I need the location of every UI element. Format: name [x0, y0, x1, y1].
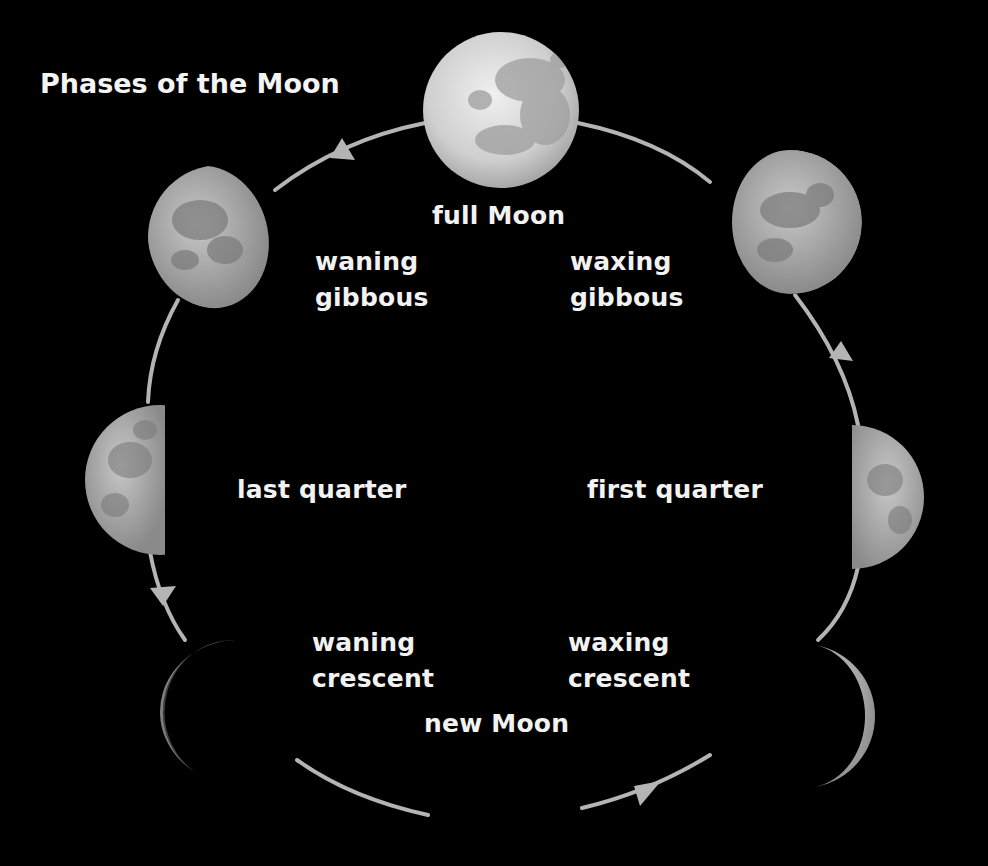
moon-waning-crescent	[160, 640, 235, 772]
label-line: gibbous	[315, 280, 429, 316]
arrow-icon	[330, 138, 355, 160]
label-line: waning	[312, 625, 434, 661]
label-line: crescent	[568, 661, 690, 697]
label-line: waxing	[568, 625, 690, 661]
arrow-icon	[634, 781, 661, 806]
label-full-moon: full Moon	[432, 198, 565, 234]
moon-waning-gibbous	[131, 152, 284, 322]
arrow-icon	[150, 586, 176, 606]
diagram-title: Phases of the Moon	[40, 68, 340, 99]
moon-first-quarter	[852, 420, 932, 580]
moon-full	[423, 32, 579, 188]
moon-phases-diagram: Phases of the Moon full Moon waxing gibb…	[0, 0, 988, 866]
label-line: waxing	[570, 244, 684, 280]
label-waxing-crescent: waxing crescent	[568, 625, 690, 697]
label-line: waning	[315, 244, 429, 280]
label-waning-crescent: waning crescent	[312, 625, 434, 697]
label-waxing-gibbous: waxing gibbous	[570, 244, 684, 316]
label-last-quarter: last quarter	[237, 472, 407, 508]
moon-waxing-gibbous	[700, 140, 880, 310]
label-new-moon: new Moon	[424, 706, 569, 742]
moon-last-quarter	[85, 405, 165, 555]
label-line: gibbous	[570, 280, 684, 316]
moon-waxing-crescent	[815, 645, 875, 787]
label-line: crescent	[312, 661, 434, 697]
label-waning-gibbous: waning gibbous	[315, 244, 429, 316]
label-first-quarter: first quarter	[587, 472, 763, 508]
